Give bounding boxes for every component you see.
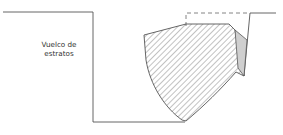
scarp-line [244, 13, 276, 76]
label-line-2: estratos [24, 49, 94, 58]
toppled-block-mass [144, 24, 244, 121]
label-line-1: Vuelco de [24, 40, 94, 49]
strata-toppling-diagram [0, 0, 283, 135]
diagram-label: Vuelco de estratos [24, 40, 94, 58]
